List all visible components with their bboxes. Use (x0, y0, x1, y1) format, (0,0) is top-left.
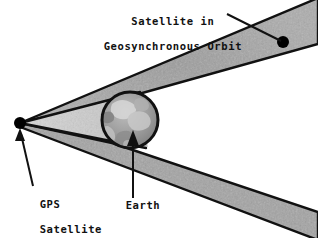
title-line-2: Geosynchronous Orbit (104, 40, 242, 52)
gps-label-line-1: GPS (40, 198, 61, 210)
geosynchronous-satellite-label: Satellite in Geosynchronous Orbit (0, 3, 318, 65)
gps-geosynchronous-orbit-diagram: Satellite in Geosynchronous Orbit GPS Sa… (0, 0, 318, 238)
gps-label-line-2: Satellite (40, 223, 102, 235)
earth-label: Earth (108, 199, 178, 211)
title-line-1: Satellite in (131, 15, 214, 27)
gps-satellite-label: GPS Satellite (12, 186, 108, 238)
gps-satellite-leader-arrow (15, 128, 33, 186)
gps-satellite-marker (14, 117, 26, 129)
